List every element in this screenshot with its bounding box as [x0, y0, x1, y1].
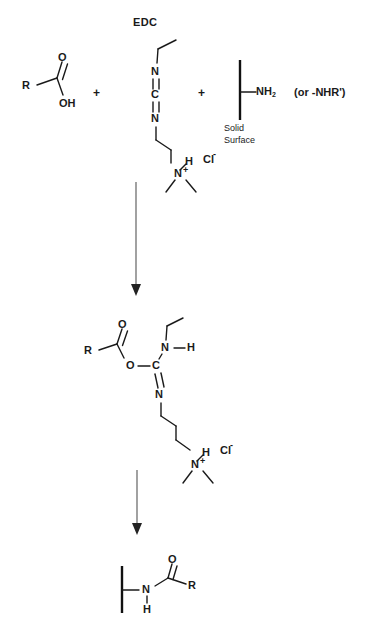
product-amide-nitrogen-label: N	[142, 584, 150, 595]
acid-hydroxyl-label: OH	[59, 98, 76, 109]
intermediate-carbonyl-oxygen-label: O	[118, 319, 127, 330]
reaction-arrow-1	[131, 182, 141, 296]
product-amide-hydrogen-label: H	[143, 604, 151, 615]
product-bonds	[122, 564, 186, 613]
intermediate-ammonium-nitrogen-label: N	[191, 459, 199, 470]
solid-surface-caption-line2: Surface	[224, 136, 255, 145]
intermediate-ester-oxygen-label: O	[126, 360, 135, 371]
product-carbonyl-oxygen-label: O	[168, 554, 177, 565]
intermediate-r-group-label: R	[84, 345, 92, 356]
product-r-group-label: R	[188, 580, 196, 591]
intermediate-amine-hydrogen-label: H	[187, 342, 195, 353]
surface-amine-subscript: 2	[272, 91, 276, 98]
edc-nitrogen-top-label: N	[151, 66, 159, 77]
surface-amine-symbol: NH	[256, 85, 272, 97]
acid-carbonyl-oxygen-label: O	[58, 52, 67, 63]
edc-carbon-center-label: C	[151, 89, 159, 100]
edc-ammonium-nitrogen-label: N	[174, 168, 182, 179]
plus-sign-2: +	[198, 87, 205, 99]
reaction-scheme-figure: EDC R O OH + + N C N H N + Cl - NH2 (or …	[0, 0, 367, 635]
edc-chloride-charge-label: -	[213, 150, 216, 159]
intermediate-carbon-center-label: C	[152, 360, 160, 371]
solid-surface-caption-line1: Solid	[224, 124, 244, 133]
intermediate-nitrogen-top-label: N	[161, 342, 169, 353]
intermediate-nitrogen-bottom-label: N	[155, 389, 163, 400]
surface-amine-label: NH2	[256, 86, 276, 98]
acid-r-group-label: R	[22, 80, 30, 91]
edc-ammonium-charge-label: +	[183, 166, 188, 175]
intermediate-ammonium-charge-label: +	[200, 457, 205, 466]
solid-surface-amine-bonds	[240, 60, 256, 120]
edc-reagent-label: EDC	[133, 17, 157, 28]
edc-nitrogen-bottom-label: N	[151, 113, 159, 124]
reaction-arrow-2	[132, 470, 142, 535]
plus-sign-1: +	[93, 87, 100, 99]
intermediate-chloride-charge-label: -	[230, 441, 233, 450]
surface-amine-alternative-label: (or -NHR')	[294, 87, 346, 98]
carboxylic-acid-bonds	[37, 62, 68, 95]
